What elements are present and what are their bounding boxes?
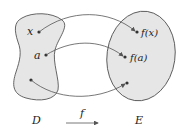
point-fx bbox=[135, 30, 138, 33]
label-E: E bbox=[134, 114, 143, 127]
label-fa: f(a) bbox=[129, 52, 148, 63]
label-D: D bbox=[31, 114, 41, 127]
label-x: x bbox=[27, 25, 34, 38]
label-fx: f(x) bbox=[140, 27, 158, 38]
label-a: a bbox=[34, 49, 41, 62]
label-f: f bbox=[79, 107, 86, 120]
point-fa bbox=[123, 55, 126, 58]
point-unlabeled-e bbox=[125, 81, 128, 84]
function-mapping-diagram: x a f(x) f(a) D E f bbox=[0, 0, 183, 131]
